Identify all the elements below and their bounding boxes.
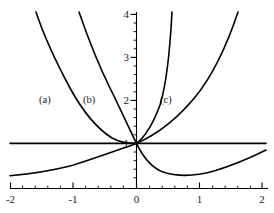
y-tick-label-one: 1 xyxy=(119,138,129,149)
y-tick-label-two: 2 xyxy=(119,95,129,106)
x-tick-label-zero: 0 xyxy=(134,194,140,205)
y-axis-major-ticks xyxy=(131,14,137,143)
y-tick-label-four: 4 xyxy=(119,9,129,20)
exponential-functions-figure: -2 -1 0 1 2 1 2 3 4 (a) (b) (c) xyxy=(0,0,274,213)
x-tick-label-neg2: -2 xyxy=(6,194,15,205)
curve-label-c: (c) xyxy=(160,95,172,106)
x-tick-label-two: 2 xyxy=(259,194,265,205)
y-tick-label-three: 3 xyxy=(119,52,129,63)
curve-b xyxy=(79,12,266,175)
curve-c xyxy=(10,12,172,143)
x-tick-label-one: 1 xyxy=(197,194,203,205)
curve-label-b: (b) xyxy=(83,95,95,106)
curve-label-a: (a) xyxy=(39,95,51,106)
plot-canvas xyxy=(0,0,274,213)
x-tick-label-neg1: -1 xyxy=(68,194,77,205)
